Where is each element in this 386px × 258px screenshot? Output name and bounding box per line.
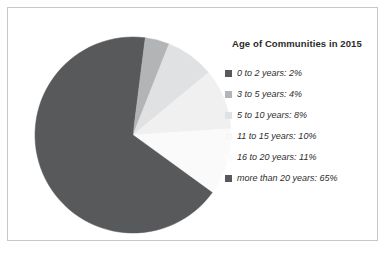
legend-label-0-to-2-years: 0 to 2 years: 2% [237, 69, 302, 78]
legend-swatch-3-to-5-years [225, 91, 232, 98]
legend-label-3-to-5-years: 3 to 5 years: 4% [237, 90, 302, 99]
pie-chart-svg [32, 34, 234, 236]
legend-swatch-16-to-20-years [225, 154, 232, 161]
legend-label-16-to-20-years: 16 to 20 years: 11% [237, 153, 316, 162]
legend-swatch-0-to-2-years [225, 70, 232, 77]
pie-chart [32, 34, 234, 236]
chart-figure: Age of Communities in 2015 0 to 2 years:… [0, 0, 386, 258]
legend-item: more than 20 years: 65% [225, 168, 381, 189]
legend-item: 5 to 10 years: 8% [225, 105, 381, 126]
legend-swatch-more-than-20-years [225, 175, 232, 182]
legend-swatch-5-to-10-years [225, 112, 232, 119]
legend-label-11-to-15-years: 11 to 15 years: 10% [237, 132, 316, 141]
pie-slice-group [35, 37, 231, 233]
chart-frame: Age of Communities in 2015 0 to 2 years:… [7, 7, 378, 241]
legend-label-5-to-10-years: 5 to 10 years: 8% [237, 111, 307, 120]
legend-item: 11 to 15 years: 10% [225, 126, 381, 147]
legend-swatch-11-to-15-years [225, 133, 232, 140]
chart-legend: Age of Communities in 2015 0 to 2 years:… [225, 38, 381, 189]
legend-item: 16 to 20 years: 11% [225, 147, 381, 168]
legend-item: 0 to 2 years: 2% [225, 63, 381, 84]
legend-item: 3 to 5 years: 4% [225, 84, 381, 105]
legend-label-more-than-20-years: more than 20 years: 65% [237, 174, 338, 183]
legend-title: Age of Communities in 2015 [232, 38, 381, 49]
